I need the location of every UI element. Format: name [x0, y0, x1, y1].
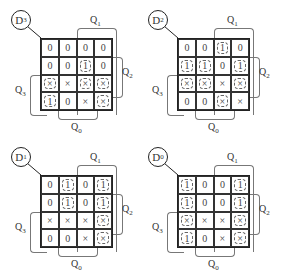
kmap-cell: 0	[77, 194, 95, 212]
kmap-cell: 0	[196, 229, 214, 247]
kmap-cell: ×	[59, 212, 77, 230]
q3-label: Q3	[152, 84, 163, 98]
kmap-cell: 0	[41, 176, 59, 194]
q3-label: Q3	[15, 221, 26, 235]
q3-label: Q3	[152, 221, 163, 235]
karnaugh-map-d0: D0 10011001××××10×× Q1 Q2 Q3 Q0	[137, 137, 277, 274]
kmap-cell: 0	[41, 194, 59, 212]
q3-label: Q3	[15, 84, 26, 98]
kmap-cell: 1	[178, 229, 196, 247]
kmap-cell: ×	[77, 212, 95, 230]
kmap-cell: 1	[41, 92, 59, 110]
q0-label: Q0	[71, 121, 82, 135]
kmap-cell: ×	[214, 92, 232, 110]
karnaugh-map-d1: D1 01010101××××00×× Q1 Q2 Q3 Q0	[0, 137, 140, 274]
kmap-cell: ×	[41, 212, 59, 230]
kmap-cell: 1	[94, 194, 112, 212]
kmap-cell: ×	[77, 75, 95, 93]
kmap-cell: 1	[231, 176, 249, 194]
output-label: D0	[148, 147, 168, 167]
kmap-cell: 1	[178, 57, 196, 75]
q2-label: Q2	[122, 66, 133, 80]
q1-label: Q1	[90, 14, 101, 28]
kmap-cell: 1	[178, 194, 196, 212]
kmap-cell: 1	[59, 176, 77, 194]
kmap-cell: ×	[94, 75, 112, 93]
kmap-cell: 0	[214, 176, 232, 194]
kmap-cell: 0	[77, 39, 95, 57]
kmap-cell: ×	[94, 92, 112, 110]
kmap-cell: 1	[214, 39, 232, 57]
kmap-cell: 1	[196, 57, 214, 75]
kmap-cell: ×	[231, 229, 249, 247]
kmap-cell: 0	[94, 39, 112, 57]
q2-label: Q2	[259, 203, 270, 217]
kmap-cell: 0	[59, 39, 77, 57]
kmap-cell: 0	[196, 176, 214, 194]
kmap-cell: 1	[231, 57, 249, 75]
karnaugh-map-d2: D2 00101101××××00×× Q1 Q2 Q3 Q0	[137, 0, 277, 137]
kmap-cell: 0	[41, 57, 59, 75]
kmap-cell: 0	[214, 57, 232, 75]
q0-label: Q0	[71, 258, 82, 272]
q0-label: Q0	[208, 121, 219, 135]
kmap-cell: ×	[94, 212, 112, 230]
kmap-cell: 0	[214, 194, 232, 212]
kmap-cell: 0	[196, 39, 214, 57]
kmap-cell: 1	[77, 57, 95, 75]
kmap-cell: 1	[94, 176, 112, 194]
kmap-cell: 1	[59, 194, 77, 212]
kmap-cell: ×	[77, 92, 95, 110]
kmap-cell: 0	[94, 57, 112, 75]
kmap-cell: ×	[196, 212, 214, 230]
output-label: D2	[148, 10, 168, 30]
kmap-cell: 1	[178, 176, 196, 194]
q1-label: Q1	[227, 14, 238, 28]
q2-label: Q2	[122, 203, 133, 217]
q0-label: Q0	[208, 258, 219, 272]
kmap-cell: 0	[77, 176, 95, 194]
kmap-grid: 10011001××××10××	[177, 175, 250, 248]
kmap-cell: 0	[231, 39, 249, 57]
kmap-grid: 01010101××××00××	[40, 175, 113, 248]
kmap-cell: ×	[214, 75, 232, 93]
kmap-cell: ×	[214, 229, 232, 247]
kmap-cell: 0	[196, 92, 214, 110]
kmap-cell: 0	[41, 229, 59, 247]
output-label: D3	[11, 10, 31, 30]
q1-label: Q1	[90, 151, 101, 165]
kmap-cell: 0	[59, 57, 77, 75]
kmap-cell: 0	[178, 92, 196, 110]
kmap-cell: ×	[41, 75, 59, 93]
kmap-cell: ×	[231, 212, 249, 230]
q1-label: Q1	[227, 151, 238, 165]
kmap-cell: 1	[231, 194, 249, 212]
kmap-cell: 0	[59, 229, 77, 247]
kmap-cell: 0	[41, 39, 59, 57]
kmap-cell: ×	[94, 229, 112, 247]
kmap-grid: 00101101××××00××	[177, 38, 250, 111]
kmap-cell: ×	[178, 212, 196, 230]
kmap-cell: 0	[59, 92, 77, 110]
output-label: D1	[11, 147, 31, 167]
kmap-cell: ×	[59, 75, 77, 93]
kmap-grid: 00000010××××10××	[40, 38, 113, 111]
q2-label: Q2	[259, 66, 270, 80]
kmap-cell: ×	[196, 75, 214, 93]
kmap-cell: ×	[77, 229, 95, 247]
kmap-cell: 0	[196, 194, 214, 212]
kmap-cell: ×	[178, 75, 196, 93]
kmap-cell: ×	[214, 212, 232, 230]
kmap-cell: 0	[178, 39, 196, 57]
kmap-cell: ×	[231, 92, 249, 110]
karnaugh-map-d3: D3 00000010××××10×× Q1 Q2 Q3 Q0	[0, 0, 140, 137]
kmap-cell: ×	[231, 75, 249, 93]
